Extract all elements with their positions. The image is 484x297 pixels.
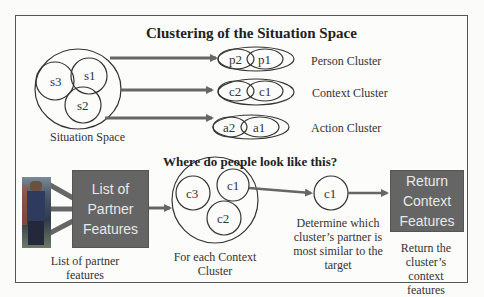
svg-text:c3: c3 — [186, 186, 198, 201]
svg-text:c1: c1 — [324, 186, 336, 201]
svg-text:p1: p1 — [258, 52, 271, 67]
svg-text:c2: c2 — [217, 211, 229, 226]
top-title: Clustering of the Situation Space — [146, 25, 357, 42]
svg-text:c2: c2 — [229, 84, 241, 99]
action-cluster-label: Action Cluster — [311, 121, 381, 136]
selected-cluster: c1 — [314, 176, 348, 210]
bottom-title: Where do people look like this? — [163, 154, 337, 170]
subcluster-s1: s1 — [84, 68, 96, 83]
return-context-features-box: Return Context Features — [390, 170, 464, 232]
partner-photo — [22, 177, 51, 248]
svg-text:p2: p2 — [229, 52, 242, 67]
person-cluster: p2 p1 — [218, 47, 294, 71]
subcluster-s3: s3 — [50, 74, 62, 89]
svg-text:c1: c1 — [227, 178, 239, 193]
svg-text:a2: a2 — [223, 120, 235, 135]
partner-features-box: List of Partner Features — [72, 170, 149, 248]
arrow-to-selected-cluster — [249, 188, 311, 193]
svg-text:c1: c1 — [259, 84, 271, 99]
situation-space-label: Situation Space — [50, 130, 125, 145]
selected-cluster-caption: Determine which cluster’s partner is mos… — [283, 216, 393, 272]
person-cluster-label: Person Cluster — [311, 54, 381, 69]
subcluster-s2: s2 — [77, 98, 89, 113]
context-cluster: c2 c1 — [218, 79, 294, 105]
photo-caption: List of partner features — [40, 254, 130, 282]
context-cluster-label: Context Cluster — [312, 86, 388, 101]
return-caption: Return the cluster’s context features — [390, 241, 462, 297]
action-cluster: a2 a1 — [213, 115, 289, 139]
context-clusters-caption: For each Context Cluster — [170, 250, 260, 278]
svg-text:a1: a1 — [253, 120, 265, 135]
